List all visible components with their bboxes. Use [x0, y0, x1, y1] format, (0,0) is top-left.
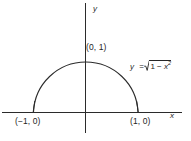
point-label-top: (0, 1): [86, 43, 106, 52]
semicircle-figure: (0, 1) (−1, 0) (1, 0) y x y = 1 − x2: [0, 0, 191, 141]
y-axis-label: y: [93, 5, 97, 13]
x-axis-label: x: [170, 112, 174, 120]
radical-glyph-icon: [144, 60, 150, 71]
radicand-lead: 1 −: [150, 62, 164, 71]
radical-sign: 1 − x2: [144, 60, 171, 71]
point-label-right: (1, 0): [130, 117, 150, 126]
radical-overbar: [149, 60, 171, 61]
curve-equation-label: y = 1 − x2: [130, 60, 171, 71]
point-label-left: (−1, 0): [15, 117, 41, 126]
